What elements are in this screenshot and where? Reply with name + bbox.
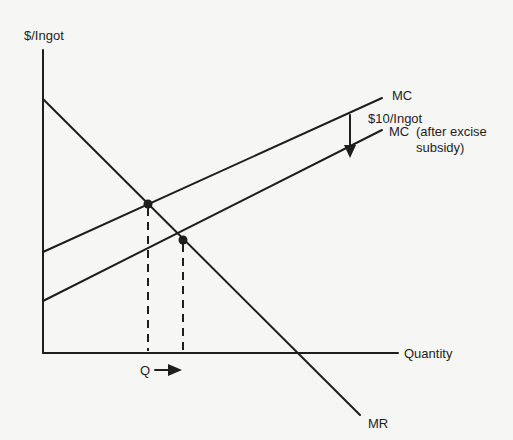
y-axis-label: $/Ingot bbox=[24, 28, 64, 43]
quantity-marker-label: Q bbox=[140, 363, 150, 378]
mc-curve bbox=[43, 98, 382, 252]
shift-amount-label: $10/Ingot bbox=[368, 111, 423, 126]
x-axis-label: Quantity bbox=[404, 346, 453, 361]
monopoly-subsidy-diagram: $/Ingot Quantity MR MC MC (after excise … bbox=[0, 0, 513, 440]
mc-subsidy-label: MC bbox=[389, 124, 409, 139]
mc-label: MC bbox=[392, 88, 412, 103]
down-arrow-icon bbox=[344, 115, 356, 158]
mc-subsidy-note-line1: (after excise bbox=[416, 124, 487, 139]
equilibrium-point-after bbox=[179, 236, 188, 245]
mr-label: MR bbox=[368, 416, 388, 431]
right-arrow-icon bbox=[155, 364, 182, 376]
mr-curve bbox=[43, 99, 360, 415]
equilibrium-point-before bbox=[144, 200, 153, 209]
mc-subsidy-curve bbox=[43, 130, 382, 301]
mc-subsidy-note-line2: subsidy) bbox=[416, 140, 464, 155]
